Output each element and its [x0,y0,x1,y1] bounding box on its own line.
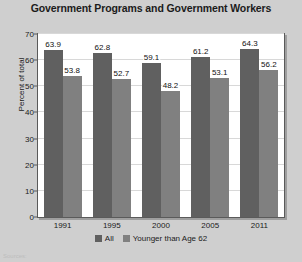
bar[interactable] [210,78,229,217]
legend-item[interactable]: All [95,234,114,243]
bar-group: 59.148.2 [142,34,180,217]
bar-value-label: 48.2 [162,81,180,90]
chart-legend: AllYounger than Age 62 [0,234,302,243]
bar[interactable] [240,49,259,217]
x-tick-label: 1991 [54,221,72,230]
legend-item[interactable]: Younger than Age 62 [123,234,207,243]
y-tick-label: 70 [0,30,34,39]
x-tick-label: 2000 [152,221,170,230]
legend-swatch-icon [95,235,102,242]
chart-figure: Government Programs and Government Worke… [0,0,302,262]
bar-value-label: 53.8 [63,66,81,75]
x-tick-label: 2005 [201,221,219,230]
legend-label: All [105,234,114,243]
footnote-text: Sources: [3,253,143,261]
bar[interactable] [161,91,180,217]
bar-group: 62.852.7 [93,34,131,217]
bar-group: 61.253.1 [191,34,229,217]
y-tick-label: 10 [0,186,34,195]
bar[interactable] [259,70,278,217]
bar[interactable] [142,63,161,218]
legend-swatch-icon [123,235,130,242]
bar[interactable] [112,79,131,217]
bar[interactable] [93,53,112,217]
bar[interactable] [191,57,210,217]
bar-group: 63.953.8 [44,34,82,217]
y-tick-label: 30 [0,134,34,143]
bar-group: 64.356.2 [240,34,278,217]
plot-area: 63.953.862.852.759.148.261.253.164.356.2 [37,33,285,218]
bar-value-label: 64.3 [241,39,259,48]
y-tick-label: 40 [0,108,34,117]
bar-value-label: 62.8 [94,43,112,52]
x-tick-label: 1995 [103,221,121,230]
bar-value-label: 63.9 [44,40,62,49]
bar-value-label: 61.2 [192,47,210,56]
chart-title: Government Programs and Government Worke… [0,2,302,14]
y-tick-label: 20 [0,160,34,169]
bar-value-label: 53.1 [211,68,229,77]
y-tick-label: 60 [0,56,34,65]
legend-label: Younger than Age 62 [133,234,207,243]
y-tick-label: 50 [0,82,34,91]
bar-value-label: 59.1 [143,53,161,62]
x-tick-label: 2011 [251,221,268,230]
bar-value-label: 52.7 [113,69,131,78]
bar-value-label: 56.2 [260,60,278,69]
y-tick-label: 0 [0,213,34,222]
bar[interactable] [44,50,63,217]
bar[interactable] [63,76,82,217]
